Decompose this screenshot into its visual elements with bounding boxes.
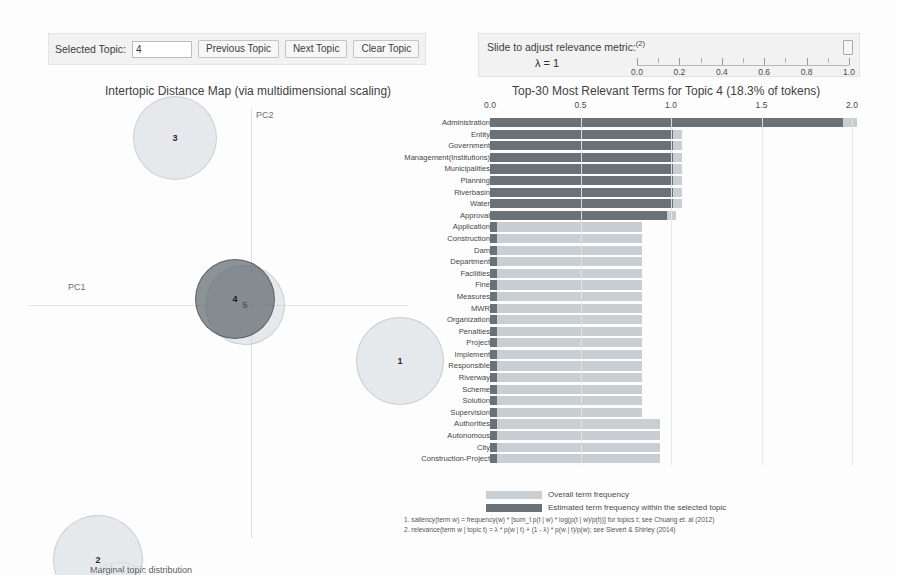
bar-overall-frequency [490,385,642,394]
bar-row[interactable]: Approval [398,210,878,222]
bar-row[interactable]: Fine [398,279,878,291]
relevance-slider-ticks [637,58,849,66]
intertopic-distance-map[interactable]: PC2 PC1 31542 Marginal topic distributio… [20,100,420,560]
bar-row[interactable]: Water [398,198,878,210]
bar-topic-frequency [490,350,497,359]
bar-term-label[interactable]: Water [470,198,490,209]
bar-term-label[interactable]: Fine [475,279,490,290]
topic-bubble-label: 3 [172,133,177,143]
bar-row[interactable]: Planning [398,175,878,187]
bar-term-label[interactable]: MWR [471,303,490,314]
bar-term-label[interactable]: Administration [442,117,490,128]
topic-bubble-4[interactable]: 4 [195,259,275,339]
bar-term-label[interactable]: Measures [457,291,490,302]
bar-topic-frequency [490,211,667,220]
relevance-slider-handle[interactable] [843,40,853,55]
slider-tick-label: 0.4 [716,67,728,77]
bar-chart-tick-label: 1.5 [756,100,768,110]
clear-topic-button[interactable]: Clear Topic [353,40,419,58]
bar-row[interactable]: Construction [398,233,878,245]
map-pc1-label: PC1 [68,282,86,292]
bar-term-label[interactable]: Department [450,256,490,267]
bar-row[interactable]: Penalties [398,326,878,338]
bar-row[interactable]: Supervision [398,407,878,419]
bar-term-label[interactable]: Authorities [454,418,490,429]
bar-overall-frequency [490,176,682,185]
legend-row-overall: Overall term frequency [486,488,826,501]
bar-row[interactable]: Department [398,256,878,268]
bar-row[interactable]: Responsible [398,360,878,372]
bar-row[interactable]: MWR [398,303,878,315]
bar-topic-frequency [490,454,497,463]
bar-chart-gridline [671,117,672,465]
bar-term-label[interactable]: Municipalities [444,163,490,174]
bar-row[interactable]: Administration [398,117,878,129]
bar-topic-frequency [490,280,497,289]
bar-term-label[interactable]: Riverway [459,372,490,383]
topic-bubble-3[interactable]: 3 [133,96,217,180]
bar-topic-frequency [490,222,497,231]
bar-topic-frequency [490,257,497,266]
bar-row[interactable]: Application [398,221,878,233]
bar-overall-frequency [490,373,642,382]
bar-row[interactable]: Entity [398,129,878,141]
bar-topic-frequency [490,304,497,313]
bar-term-label[interactable]: City [477,442,490,453]
bar-term-label[interactable]: Approval [460,210,490,221]
bar-term-label[interactable]: Organization [447,314,490,325]
bar-overall-frequency [490,304,642,313]
bar-term-label[interactable]: Solution [463,395,490,406]
bar-overall-frequency [490,327,642,336]
bar-term-label[interactable]: Government [448,140,490,151]
bar-row[interactable]: City [398,442,878,454]
bar-term-label[interactable]: Supervision [450,407,490,418]
bar-row[interactable]: Municipalities [398,163,878,175]
bar-term-label[interactable]: Construction-Project [421,453,490,464]
selected-topic-input[interactable] [132,41,192,58]
next-topic-button[interactable]: Next Topic [285,40,348,58]
bar-overall-frequency [490,164,682,173]
bar-term-label[interactable]: Riverbasin [454,187,490,198]
bar-row[interactable]: Facilities [398,268,878,280]
topic-control-panel: Selected Topic: Previous Topic Next Topi… [48,33,426,65]
bar-term-label[interactable]: Responsible [448,360,490,371]
bar-term-label[interactable]: Entity [471,129,490,140]
bar-row[interactable]: Autonomous [398,430,878,442]
bar-row[interactable]: Project [398,337,878,349]
bar-term-label[interactable]: Construction [447,233,490,244]
bar-row[interactable]: Government [398,140,878,152]
bar-row[interactable]: Scheme [398,384,878,396]
bar-chart-x-axis: 0.00.51.01.52.0 [398,100,878,116]
bar-row[interactable]: Measures [398,291,878,303]
bar-row[interactable]: Authorities [398,418,878,430]
bar-row[interactable]: Riverway [398,372,878,384]
bar-row[interactable]: Riverbasin [398,187,878,199]
bar-term-label[interactable]: Management(Institutions) [404,152,490,163]
bar-chart-tick-label: 2.0 [846,100,858,110]
legend-label-selected: Estimated term frequency within the sele… [548,503,726,512]
bar-term-label[interactable]: Scheme [462,384,490,395]
bar-term-label[interactable]: Penalties [459,326,490,337]
bar-topic-frequency [490,385,497,394]
bar-row[interactable]: Solution [398,395,878,407]
bar-overall-frequency [490,408,642,417]
bar-term-label[interactable]: Implement [455,349,490,360]
relevance-slider-tick-labels: 0.00.20.40.60.81.0 [637,67,849,79]
bar-term-label[interactable]: Project [466,337,490,348]
bar-term-label[interactable]: Dam [474,245,490,256]
bar-row[interactable]: Organization [398,314,878,326]
bar-topic-frequency [490,431,497,440]
bar-topic-frequency [490,373,497,382]
topic-bubble-label: 4 [232,294,237,304]
bar-row[interactable]: Construction-Project [398,453,878,465]
bar-overall-frequency [490,118,857,127]
bar-term-label[interactable]: Facilities [460,268,490,279]
bar-term-label[interactable]: Planning [460,175,490,186]
previous-topic-button[interactable]: Previous Topic [198,40,279,58]
bar-row[interactable]: Management(Institutions) [398,152,878,164]
pyldavis-visualization: Selected Topic: Previous Topic Next Topi… [0,0,897,575]
bar-term-label[interactable]: Autonomous [447,430,490,441]
bar-term-label[interactable]: Application [453,221,490,232]
bar-row[interactable]: Dam [398,245,878,257]
bar-row[interactable]: Implement [398,349,878,361]
